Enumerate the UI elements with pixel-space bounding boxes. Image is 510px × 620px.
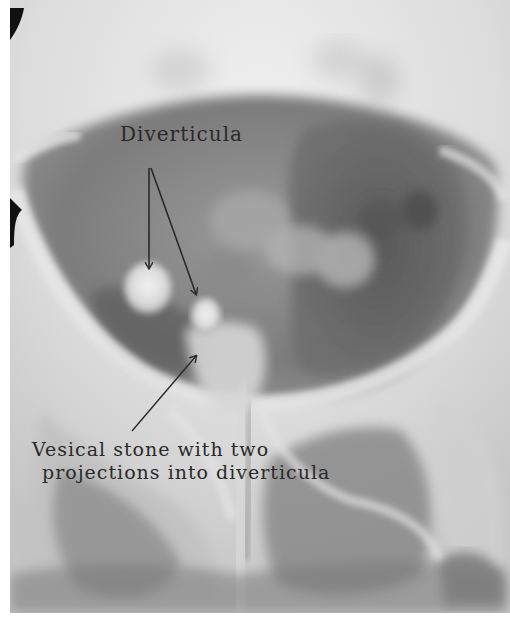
xray-figure: Diverticula Vesical stone with two proje… [0,0,510,620]
diverticulum-left [124,262,172,314]
label-diverticula: Diverticula [120,124,243,144]
label-vesical-stone-line-1: Vesical stone with two [32,438,330,461]
left-margin [0,0,10,620]
label-vesical-stone-line-2: projections into diverticula [32,461,330,484]
diverticulum-right [191,298,221,334]
bottom-margin [0,613,510,620]
xray-image [0,0,510,620]
label-vesical-stone: Vesical stone with two projections into … [32,438,330,484]
